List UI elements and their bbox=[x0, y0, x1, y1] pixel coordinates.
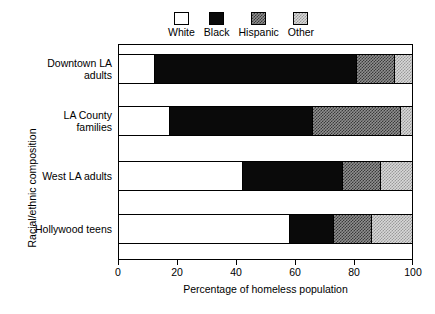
bar-downtown-la-adults bbox=[118, 54, 413, 84]
legend-label-hispanic: Hispanic bbox=[239, 27, 279, 38]
bars-layer bbox=[118, 44, 413, 260]
x-tick-mark-0 bbox=[118, 260, 119, 265]
legend-item-hispanic: Hispanic bbox=[239, 12, 279, 38]
stacked-bar-chart: White Black Hispanic Other Downtown LAad… bbox=[0, 0, 435, 314]
bar-segment-white bbox=[119, 55, 154, 83]
bar-la-county-families bbox=[118, 106, 413, 136]
legend-swatch-black bbox=[209, 12, 224, 25]
bar-segment-hispanic bbox=[342, 162, 380, 190]
bar-segment-black bbox=[242, 162, 342, 190]
x-tick-label-20: 20 bbox=[171, 266, 183, 278]
legend-item-black: Black bbox=[204, 12, 230, 38]
x-tick-mark-100 bbox=[412, 260, 413, 265]
legend-label-white: White bbox=[168, 27, 195, 38]
x-tick-label-60: 60 bbox=[289, 266, 301, 278]
x-axis-ticks: 020406080100 bbox=[118, 260, 413, 282]
bar-segment-white bbox=[119, 162, 242, 190]
bar-segment-black bbox=[169, 107, 313, 135]
x-tick-label-80: 80 bbox=[348, 266, 360, 278]
bar-segment-white bbox=[119, 107, 169, 135]
y-axis-title: Racial/ethnic composition bbox=[26, 78, 38, 298]
legend-swatch-white bbox=[174, 12, 189, 25]
bar-hollywood-teens bbox=[118, 214, 413, 244]
x-tick-mark-40 bbox=[236, 260, 237, 265]
bar-segment-other bbox=[380, 162, 412, 190]
bar-segment-other bbox=[400, 107, 412, 135]
chart-legend: White Black Hispanic Other bbox=[168, 12, 314, 38]
bar-segment-black bbox=[289, 215, 333, 243]
y-axis-title-holder: Racial/ethnic composition bbox=[14, 40, 28, 260]
legend-label-other: Other bbox=[288, 27, 314, 38]
bar-segment-black bbox=[154, 55, 356, 83]
x-axis-title: Percentage of homeless population bbox=[118, 283, 413, 295]
bar-segment-hispanic bbox=[312, 107, 400, 135]
x-tick-mark-60 bbox=[295, 260, 296, 265]
legend-swatch-hispanic bbox=[251, 12, 266, 25]
legend-item-white: White bbox=[168, 12, 195, 38]
bar-segment-hispanic bbox=[333, 215, 371, 243]
x-tick-label-0: 0 bbox=[115, 266, 121, 278]
bar-segment-white bbox=[119, 215, 289, 243]
x-tick-label-40: 40 bbox=[230, 266, 242, 278]
legend-swatch-other bbox=[293, 12, 308, 25]
bar-segment-other bbox=[394, 55, 412, 83]
x-tick-mark-20 bbox=[177, 260, 178, 265]
legend-label-black: Black bbox=[204, 27, 230, 38]
bar-segment-hispanic bbox=[356, 55, 394, 83]
bar-segment-other bbox=[371, 215, 412, 243]
legend-item-other: Other bbox=[288, 12, 314, 38]
bar-west-la-adults bbox=[118, 161, 413, 191]
x-tick-mark-80 bbox=[354, 260, 355, 265]
x-tick-label-100: 100 bbox=[404, 266, 422, 278]
